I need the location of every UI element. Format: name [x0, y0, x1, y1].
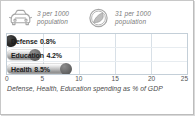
- infographic-panel: 3 per 1000population 31 per 1000populati…: [0, 0, 194, 115]
- x-tick-20: 20: [148, 75, 155, 82]
- x-tick-25: 25: [181, 75, 188, 82]
- bar-row-defense: Defense0.8%: [7, 34, 187, 48]
- bar-chart: Defense0.8% Education4.2%: [6, 33, 188, 92]
- car-icon: [8, 6, 33, 29]
- bar-series: Defense0.8% Education4.2%: [7, 34, 187, 74]
- bar-label-defense: Defense0.8%: [11, 34, 56, 48]
- stat-telephone: 31 per 1000population: [86, 6, 151, 29]
- bar-row-education: Education4.2%: [7, 48, 187, 62]
- bar-label-education: Education4.2%: [11, 48, 62, 62]
- bar-label-health: Health8.5%: [11, 62, 50, 75]
- telephone-dial-icon: [86, 6, 111, 29]
- x-tick-10: 10: [75, 75, 82, 82]
- plot-area: Defense0.8% Education4.2%: [6, 33, 188, 75]
- x-tick-5: 5: [41, 75, 45, 82]
- bar-cap-health: [60, 63, 72, 75]
- stat-car: 3 per 1000population: [8, 6, 69, 29]
- x-tick-15: 15: [112, 75, 119, 82]
- stats-row: 3 per 1000population 31 per 1000populati…: [6, 5, 188, 32]
- chart-caption: Defense, Health, Education spending as %…: [6, 85, 188, 92]
- stat-car-label: 3 per 1000population: [37, 10, 69, 26]
- stat-telephone-label: 31 per 1000population: [115, 10, 151, 26]
- x-axis: 0 5 10 15 20 25: [6, 75, 188, 86]
- x-tick-0: 0: [5, 75, 9, 82]
- bar-row-health: Health8.5%: [7, 62, 187, 75]
